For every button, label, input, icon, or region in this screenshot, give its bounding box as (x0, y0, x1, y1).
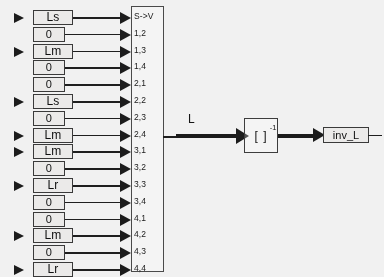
signal-arrowhead-icon (120, 264, 131, 276)
parameter-block[interactable]: Lm (33, 144, 73, 159)
mux-port-label: 4,4 (134, 263, 146, 273)
signal-wire (65, 252, 122, 254)
zero-block[interactable]: 0 (33, 212, 65, 227)
signal-wire (73, 135, 122, 137)
signal-arrowhead-icon (120, 62, 131, 74)
matrix-inverse-block[interactable]: [ ]-1 (244, 118, 278, 153)
signal-wire (65, 202, 122, 204)
signal-arrowhead-icon (120, 146, 131, 158)
zero-block[interactable]: 0 (33, 60, 65, 75)
signal-wire (73, 101, 122, 103)
mux-port-label: 3,1 (134, 145, 146, 155)
block-diagram-canvas: Ls0Lm00Ls0LmLm0Lr00Lm0Lr S->V1,21,31,42,… (0, 0, 384, 277)
inv-L-output-stub (368, 135, 382, 137)
parameter-block[interactable]: Lr (33, 178, 73, 193)
signal-arrowhead-icon (120, 113, 131, 125)
mux-port-label: 1,4 (134, 61, 146, 71)
mux-port-label: 2,3 (134, 112, 146, 122)
inverse-output-wire (278, 134, 318, 138)
signal-arrowhead-icon (120, 197, 131, 209)
mux-port-label: 2,2 (134, 95, 146, 105)
zero-block[interactable]: 0 (33, 161, 65, 176)
inverse-exponent-label: -1 (270, 123, 277, 132)
signal-arrowhead-icon (120, 12, 131, 24)
zero-block[interactable]: 0 (33, 77, 65, 92)
zero-block[interactable]: 0 (33, 195, 65, 210)
signal-wire (65, 219, 122, 221)
inverse-base-label: [ ] (254, 129, 267, 143)
signal-wire (73, 235, 122, 237)
signal-arrowhead-icon (120, 230, 131, 242)
signal-wire (65, 34, 122, 36)
mux-port-label: 4,1 (134, 213, 146, 223)
signal-arrowhead-icon (120, 46, 131, 58)
inv-L-output-block[interactable]: inv_L (323, 127, 369, 143)
input-arrow-icon (14, 97, 24, 107)
signal-arrowhead-icon (120, 130, 131, 142)
signal-wire (73, 151, 122, 153)
input-arrow-icon (14, 47, 24, 57)
signal-wire (65, 67, 122, 69)
signal-wire (73, 185, 122, 187)
parameter-block[interactable]: Ls (33, 10, 73, 25)
mux-port-label: S->V (134, 11, 154, 21)
parameter-block[interactable]: Lm (33, 228, 73, 243)
parameter-block[interactable]: Lm (33, 44, 73, 59)
signal-wire (65, 168, 122, 170)
parameter-block[interactable]: Lr (33, 262, 73, 277)
signal-arrowhead-icon (120, 79, 131, 91)
mux-port-label: 1,3 (134, 45, 146, 55)
input-arrow-icon (14, 131, 24, 141)
parameter-block[interactable]: Ls (33, 94, 73, 109)
mux-port-label: 4,2 (134, 229, 146, 239)
input-arrow-icon (14, 147, 24, 157)
mux-port-label: 3,4 (134, 196, 146, 206)
signal-wire (73, 17, 122, 19)
parameter-block[interactable]: Lm (33, 128, 73, 143)
signal-arrowhead-icon (120, 163, 131, 175)
mux-port-label: 2,4 (134, 129, 146, 139)
signal-arrowhead-icon (120, 96, 131, 108)
signal-arrowhead-icon (120, 247, 131, 259)
input-arrow-icon (14, 231, 24, 241)
inverse-block-label: [ ]-1 (254, 129, 267, 143)
signal-wire (65, 118, 122, 120)
signal-arrowhead-icon (120, 214, 131, 226)
L-signal-wire (176, 134, 238, 139)
mux-port-label: 2,1 (134, 78, 146, 88)
zero-block[interactable]: 0 (33, 111, 65, 126)
signal-arrowhead-icon (120, 180, 131, 192)
input-arrow-icon (14, 265, 24, 275)
L-signal-label: L (188, 112, 195, 126)
input-arrow-icon (14, 13, 24, 23)
mux-port-label: 4,3 (134, 246, 146, 256)
zero-block[interactable]: 0 (33, 27, 65, 42)
signal-arrowhead-icon (120, 29, 131, 41)
signal-wire (73, 51, 122, 53)
signal-wire (65, 84, 122, 86)
mux-port-label: 3,2 (134, 162, 146, 172)
mux-port-label: 3,3 (134, 179, 146, 189)
signal-wire (73, 269, 122, 271)
zero-block[interactable]: 0 (33, 245, 65, 260)
mux-port-label: 1,2 (134, 28, 146, 38)
input-arrow-icon (14, 181, 24, 191)
